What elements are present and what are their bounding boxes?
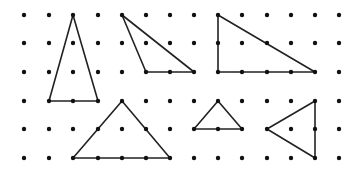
grid-dot: [144, 99, 148, 103]
obtuse-triangle: [122, 15, 194, 72]
grid-dot: [96, 156, 100, 160]
grid-dot: [168, 99, 172, 103]
grid-dot: [337, 99, 341, 103]
grid-dot: [22, 41, 26, 45]
grid-dot: [216, 127, 220, 131]
grid-dot: [289, 127, 293, 131]
grid-dot: [96, 127, 100, 131]
grid-dot: [313, 99, 317, 103]
grid-dot: [120, 70, 124, 74]
grid-dot: [289, 99, 293, 103]
grid-dot: [240, 99, 244, 103]
grid-dot: [22, 156, 26, 160]
grid-dot: [71, 99, 75, 103]
grid-dot: [120, 99, 124, 103]
grid-dot: [168, 41, 172, 45]
grid-dot: [192, 156, 196, 160]
grid-dot: [168, 70, 172, 74]
grid-dot: [71, 70, 75, 74]
grid-dot: [240, 70, 244, 74]
grid-dot: [289, 156, 293, 160]
grid-dot: [120, 127, 124, 131]
grid-dot: [265, 127, 269, 131]
grid-dot: [192, 41, 196, 45]
grid-dot: [240, 156, 244, 160]
grid-dot: [168, 13, 172, 17]
grid-dot: [120, 13, 124, 17]
grid-dot: [47, 127, 51, 131]
grid-dot: [289, 41, 293, 45]
grid-dot: [144, 13, 148, 17]
grid-dot: [120, 156, 124, 160]
grid-dot: [289, 70, 293, 74]
grid-dot: [216, 156, 220, 160]
grid-dot: [144, 70, 148, 74]
grid-dot: [192, 13, 196, 17]
grid-dot: [265, 156, 269, 160]
grid-dot: [216, 13, 220, 17]
grid-dot: [313, 127, 317, 131]
grid-dot: [71, 13, 75, 17]
grid-dot: [96, 41, 100, 45]
grid-dot: [337, 13, 341, 17]
grid-dot: [240, 41, 244, 45]
grid-dot: [265, 13, 269, 17]
grid-dot: [96, 70, 100, 74]
grid-dot: [47, 70, 51, 74]
grid-dot: [337, 41, 341, 45]
grid-dot: [216, 99, 220, 103]
grid-dot: [71, 41, 75, 45]
triangles-layer: [49, 15, 315, 158]
grid-dot: [22, 70, 26, 74]
grid-dot: [265, 99, 269, 103]
grid-dot: [265, 70, 269, 74]
grid-dot: [337, 156, 341, 160]
grid-dot: [96, 99, 100, 103]
grid-dot: [22, 127, 26, 131]
grid-dot: [144, 127, 148, 131]
grid-dot: [47, 99, 51, 103]
small-isosceles-triangle: [194, 101, 242, 129]
grid-dot: [192, 127, 196, 131]
grid-dot: [240, 127, 244, 131]
grid-dot: [265, 41, 269, 45]
grid-dot: [289, 13, 293, 17]
grid-dot: [216, 41, 220, 45]
grid-dot: [313, 41, 317, 45]
grid-dot: [47, 156, 51, 160]
grid-dot: [71, 127, 75, 131]
grid-dot: [144, 41, 148, 45]
grid-dot: [240, 13, 244, 17]
dot-grid: [22, 13, 341, 160]
grid-dot: [192, 70, 196, 74]
grid-dot: [47, 13, 51, 17]
grid-dot: [120, 41, 124, 45]
grid-dot: [337, 70, 341, 74]
grid-dot: [313, 70, 317, 74]
grid-dot: [168, 127, 172, 131]
grid-dot: [22, 13, 26, 17]
grid-dot: [216, 70, 220, 74]
dot-grid-diagram: [0, 0, 352, 175]
grid-dot: [144, 156, 148, 160]
grid-dot: [96, 13, 100, 17]
tall-isosceles-triangle: [49, 15, 98, 101]
grid-dot: [313, 13, 317, 17]
grid-dot: [71, 156, 75, 160]
grid-dot: [192, 99, 196, 103]
grid-dot: [22, 99, 26, 103]
grid-dot: [47, 41, 51, 45]
grid-dot: [337, 127, 341, 131]
grid-dot: [313, 156, 317, 160]
grid-dot: [168, 156, 172, 160]
